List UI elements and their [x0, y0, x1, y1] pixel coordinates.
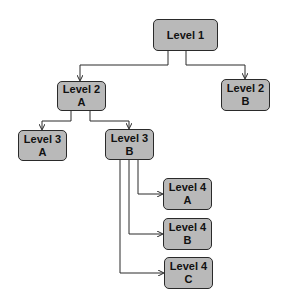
- node-sublabel: A: [78, 96, 86, 109]
- edge-l2a-l3b: [90, 111, 129, 128]
- edge-l3b-l4c: [120, 160, 163, 273]
- node-sublabel: A: [39, 146, 47, 159]
- node-label: Level 3: [111, 132, 148, 145]
- node-label: Level 4: [170, 260, 207, 273]
- node-label: Level 4: [169, 221, 206, 234]
- node-sublabel: B: [242, 95, 250, 108]
- node-level-3a: Level 3 A: [18, 130, 67, 161]
- node-label: Level 2: [227, 82, 264, 95]
- node-level-4b: Level 4 B: [163, 218, 212, 250]
- edge-l2a-l3a: [42, 111, 71, 129]
- node-level-2a: Level 2 A: [57, 81, 106, 111]
- node-level-2b: Level 2 B: [221, 79, 270, 111]
- node-label: Level 3: [24, 133, 61, 146]
- node-label: Level 1: [167, 29, 204, 42]
- node-level-3b: Level 3 B: [105, 129, 154, 160]
- edge-l1-l2a: [80, 51, 168, 80]
- node-sublabel: B: [126, 145, 134, 158]
- node-sublabel: B: [184, 234, 192, 247]
- node-label: Level 4: [169, 181, 206, 194]
- node-sublabel: A: [184, 194, 192, 207]
- edge-l1-l2b: [186, 51, 245, 78]
- node-label: Level 2: [63, 83, 100, 96]
- node-level-4a: Level 4 A: [163, 178, 212, 210]
- edge-l3b-l4a: [138, 160, 162, 194]
- edge-l3b-l4b: [129, 160, 162, 234]
- node-sublabel: C: [185, 273, 193, 286]
- node-level-4c: Level 4 C: [164, 257, 213, 289]
- node-level-1: Level 1: [153, 19, 218, 51]
